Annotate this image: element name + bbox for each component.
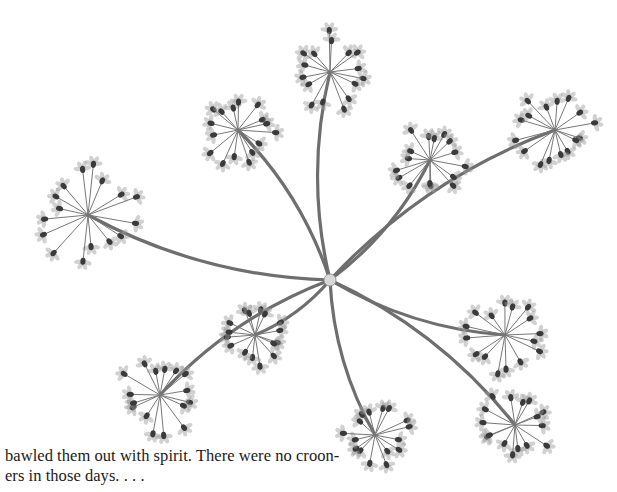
umbel-lower-right xyxy=(474,387,556,464)
caption-line-1: bawled them out with spirit. There were … xyxy=(5,446,345,466)
umbel-bottom-center xyxy=(334,399,418,474)
umbel-top-center xyxy=(294,21,373,118)
stems xyxy=(88,72,555,435)
umbel-plant-illustration xyxy=(0,0,617,492)
umbel-upper-right xyxy=(506,89,603,173)
umbel-left xyxy=(34,155,145,270)
umbel-upper-left xyxy=(201,93,285,173)
caption-line-2: ers in those days. . . . xyxy=(5,466,345,486)
caption-text: bawled them out with spirit. There were … xyxy=(5,446,345,486)
umbel-lower-left-small xyxy=(218,301,289,376)
umbel-lower-left xyxy=(115,355,199,445)
umbel-upper-mid-right xyxy=(387,121,474,195)
umbel-right xyxy=(457,294,549,383)
